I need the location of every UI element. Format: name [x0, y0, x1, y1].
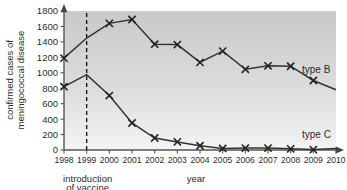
x-axis-tick-labels: 1998199920002001200220032004200520062007… [54, 155, 345, 165]
chart-figure: 020040060080010001200140016001800 199819… [0, 0, 347, 190]
x-tick-label: 2007 [258, 155, 277, 165]
x-tick-label: 2003 [168, 155, 187, 165]
x-tick-label: 2000 [100, 155, 119, 165]
x-axis-title: year [187, 173, 205, 184]
y-tick-label: 1200 [37, 52, 58, 63]
type-b-series-label: type B [302, 64, 331, 75]
x-axis-arrow [336, 147, 344, 154]
type-c-series-label: type C [302, 129, 331, 140]
vaccine-annotation-line-2: of vaccine [66, 182, 109, 190]
x-tick-label: 2009 [304, 155, 323, 165]
line-chart: 020040060080010001200140016001800 199819… [0, 0, 347, 190]
y-tick-label: 0 [53, 144, 58, 155]
x-tick-label: 2008 [281, 155, 300, 165]
y-tick-label: 400 [42, 114, 58, 125]
x-tick-label: 2005 [213, 155, 232, 165]
y-tick-label: 1400 [37, 36, 58, 47]
y-tick-label: 800 [42, 83, 58, 94]
x-tick-label: 1999 [77, 155, 96, 165]
y-tick-label: 1000 [37, 67, 58, 78]
y-tick-label: 600 [42, 98, 58, 109]
y-axis-tick-labels: 020040060080010001200140016001800 [37, 5, 58, 155]
y-tick-label: 200 [42, 129, 58, 140]
y-tick-label: 1600 [37, 21, 58, 32]
x-tick-label: 2002 [145, 155, 164, 165]
x-tick-label: 2010 [326, 155, 345, 165]
x-tick-label: 1998 [54, 155, 73, 165]
y-tick-label: 1800 [37, 5, 58, 16]
y-axis-title-line-2: meningococcal disease [15, 31, 26, 130]
x-tick-label: 2006 [236, 155, 255, 165]
x-tick-label: 2001 [122, 155, 141, 165]
y-axis-title-line-1: confirmed cases of [4, 40, 15, 120]
x-tick-label: 2004 [190, 155, 209, 165]
plot-background [64, 11, 336, 150]
